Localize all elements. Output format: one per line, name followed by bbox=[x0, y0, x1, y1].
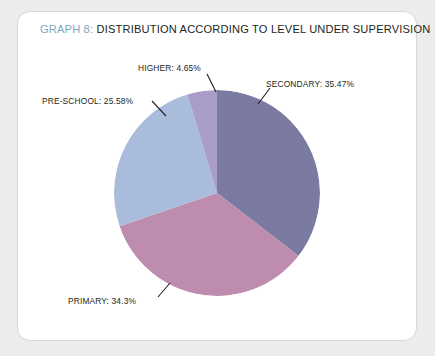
chart-card: GRAPH 8: DISTRIBUTION ACCORDING TO LEVEL… bbox=[17, 11, 417, 341]
page-title: GRAPH 8: DISTRIBUTION ACCORDING TO LEVEL… bbox=[40, 23, 430, 35]
slice-label-higher: HIGHER: 4.65% bbox=[138, 63, 201, 73]
graph-title-text: DISTRIBUTION ACCORDING TO LEVEL UNDER SU… bbox=[93, 23, 430, 35]
slice-label-primary: PRIMARY: 34.3% bbox=[68, 296, 136, 306]
graph-number: GRAPH 8: bbox=[40, 23, 93, 35]
slice-label-secondary: SECONDARY: 35.47% bbox=[266, 79, 354, 89]
slice-label-preschool: PRE-SCHOOL: 25.58% bbox=[42, 96, 133, 106]
